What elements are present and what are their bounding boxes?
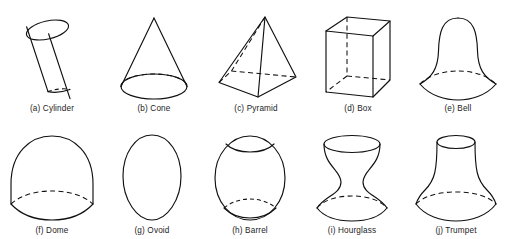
shape-cell-cylinder: (a) Cylinder (0, 2, 104, 114)
shape-cell-bell: (e) Bell (408, 2, 508, 114)
cylinder-drawing (12, 14, 92, 102)
shape-caption-trumpet: (j) Trumpet (435, 226, 476, 236)
shape-cell-box: (d) Box (308, 2, 408, 114)
shape-cell-barrel: (h) Barrel (200, 118, 300, 236)
shape-cell-dome: (f) Dome (0, 118, 104, 236)
trumpet-drawing (413, 132, 499, 224)
pyramid-drawing (213, 14, 299, 102)
shape-caption-ovoid: (g) Ovoid (134, 226, 169, 236)
bell-drawing (416, 14, 500, 102)
shape-row-top: (a) Cylinder (b) Cone (c) Pyramid (0, 2, 508, 114)
ovoid-drawing (120, 132, 184, 224)
dome-drawing (6, 132, 98, 224)
hourglass-drawing (311, 132, 393, 224)
barrel-drawing (212, 132, 288, 224)
cone-drawing (112, 14, 196, 102)
shape-caption-box: (d) Box (344, 104, 371, 114)
shape-cell-hourglass: (i) Hourglass (300, 118, 404, 236)
shape-caption-barrel: (h) Barrel (232, 226, 268, 236)
shape-cell-ovoid: (g) Ovoid (104, 118, 200, 236)
shape-caption-cylinder: (a) Cylinder (30, 104, 74, 114)
shape-cell-pyramid: (c) Pyramid (204, 2, 308, 114)
figure-sheet: (a) Cylinder (b) Cone (c) Pyramid (0, 0, 508, 239)
box-drawing (322, 14, 394, 102)
shape-cell-trumpet: (j) Trumpet (404, 118, 508, 236)
shape-caption-dome: (f) Dome (35, 226, 68, 236)
shape-caption-hourglass: (i) Hourglass (328, 226, 376, 236)
shape-caption-pyramid: (c) Pyramid (234, 104, 278, 114)
shape-cell-cone: (b) Cone (104, 2, 204, 114)
shape-row-bottom: (f) Dome (g) Ovoid (h) Barrel (0, 118, 508, 236)
shape-caption-bell: (e) Bell (444, 104, 471, 114)
shape-caption-cone: (b) Cone (137, 104, 170, 114)
